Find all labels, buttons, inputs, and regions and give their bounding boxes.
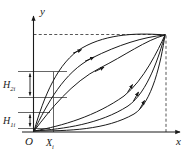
- abscissa-label-sub: i: [52, 143, 54, 150]
- abscissa-label: Xi: [45, 137, 54, 150]
- interval-lower-label: H1i: [2, 115, 15, 128]
- origin-label: O: [25, 135, 33, 147]
- interval-guides: [18, 72, 67, 133]
- diagram-canvas: y x O Xi H2i H1i: [0, 0, 192, 158]
- curve-1-direction-arrow: [73, 50, 82, 54]
- figure-container: y x O Xi H2i H1i: [0, 0, 192, 158]
- x-axis-label: x: [175, 135, 181, 147]
- y-axis-label: y: [39, 5, 45, 17]
- interval-upper-label: H2i: [2, 79, 15, 92]
- curve-2-direction-arrow: [85, 57, 94, 61]
- interval-upper-label-sub: 2i: [10, 85, 15, 92]
- interval-lower-label-sub: 1i: [10, 121, 15, 128]
